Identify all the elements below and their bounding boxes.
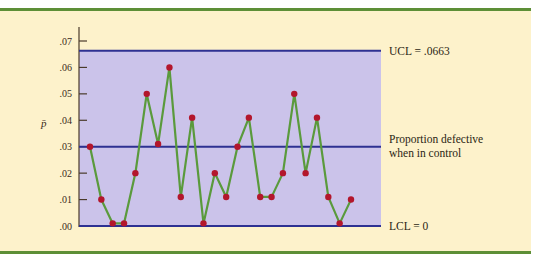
data-point bbox=[155, 141, 161, 147]
center-line-label: when in control bbox=[389, 147, 461, 159]
lcl-label: LCL = 0 bbox=[389, 220, 429, 232]
ucl-label: UCL = .0663 bbox=[389, 45, 450, 57]
data-point bbox=[234, 144, 240, 150]
data-point bbox=[87, 144, 93, 150]
data-point bbox=[257, 194, 263, 200]
center-line-label: Proportion defective bbox=[389, 133, 483, 146]
y-tick-label: .01 bbox=[60, 194, 73, 205]
data-point bbox=[109, 220, 115, 226]
data-point bbox=[280, 170, 286, 176]
data-point bbox=[212, 170, 218, 176]
y-tick-label: .06 bbox=[60, 62, 73, 73]
control-chart: .00.01.02.03.04.05.06.07 p̄ UCL = .0663P… bbox=[0, 0, 536, 259]
data-point bbox=[98, 196, 104, 202]
data-point bbox=[132, 170, 138, 176]
data-point bbox=[336, 220, 342, 226]
y-tick-label: .04 bbox=[60, 115, 73, 126]
data-point bbox=[189, 114, 195, 120]
data-point bbox=[223, 194, 229, 200]
data-point bbox=[314, 114, 320, 120]
y-tick-label: .07 bbox=[60, 36, 73, 47]
data-point bbox=[348, 196, 354, 202]
y-tick-label: .03 bbox=[60, 141, 73, 152]
data-point bbox=[325, 194, 331, 200]
data-point bbox=[178, 194, 184, 200]
data-point bbox=[200, 220, 206, 226]
y-tick-label: .05 bbox=[60, 88, 73, 99]
data-point bbox=[144, 91, 150, 97]
data-point bbox=[166, 64, 172, 70]
control-limit-labels: UCL = .0663Proportion defectivewhen in c… bbox=[389, 45, 483, 232]
data-point bbox=[121, 220, 127, 226]
data-point bbox=[246, 114, 252, 120]
y-tick-label: .02 bbox=[60, 168, 73, 179]
data-point bbox=[291, 91, 297, 97]
control-region bbox=[79, 51, 381, 226]
y-tick-label: .00 bbox=[60, 221, 73, 232]
data-point bbox=[302, 170, 308, 176]
y-axis-label: p̄ bbox=[40, 117, 47, 129]
data-point bbox=[268, 194, 274, 200]
